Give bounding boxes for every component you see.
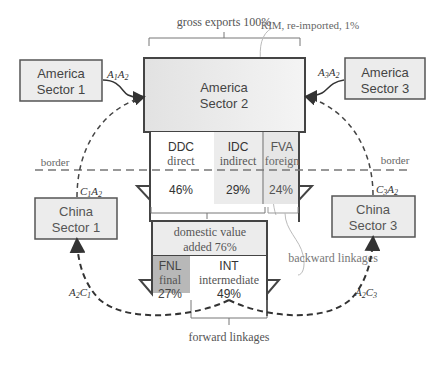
- fnl-pct: 27%: [158, 287, 182, 301]
- fnl-triangle: [140, 280, 152, 294]
- border-label-right: border: [381, 154, 410, 166]
- dva-split-table: FNL final 27% INT intermediate 49% forwa…: [140, 256, 279, 344]
- flow-a1a2-arrow: [103, 80, 142, 97]
- border-label-left: border: [41, 156, 70, 168]
- china-sector-1-line1: China: [59, 204, 94, 219]
- idc-name: indirect: [220, 154, 257, 168]
- china-sector-1-line2: Sector 1: [52, 220, 100, 235]
- flow-a3a2-label: A3A2: [317, 66, 339, 80]
- america-sector-3-line2: Sector 3: [361, 81, 409, 96]
- america-sector-1-line1: America: [37, 66, 85, 81]
- fva-code: FVA: [271, 140, 293, 154]
- backward-linkages-label: backward linkages: [288, 251, 378, 265]
- flow-a2c1-label: A2C1: [68, 286, 91, 300]
- fva-pct: 24%: [269, 183, 293, 197]
- flow-c1a2-label: C1A2: [80, 185, 102, 199]
- int-name: intermediate: [199, 273, 259, 287]
- int-pct: 49%: [217, 287, 241, 301]
- america-sector-2-box: America Sector 2: [144, 58, 305, 132]
- ddc-pct: 46%: [169, 183, 193, 197]
- flow-a2c3-label: A2C3: [354, 286, 377, 300]
- america-sector-3-line1: America: [361, 65, 409, 80]
- dva-line2: added 76%: [183, 240, 237, 254]
- forward-linkages-label: forward linkages: [189, 330, 270, 344]
- dva-line1: domestic value: [174, 225, 246, 239]
- china-sector-3-line1: China: [356, 202, 391, 217]
- left-arrow-triangle: [137, 186, 150, 200]
- ddc-name: direct: [167, 154, 195, 168]
- america-sector-3-box: America Sector 3 A3A2: [308, 58, 425, 99]
- fnl-name: final: [159, 273, 182, 287]
- america-sector-1-line2: Sector 1: [37, 82, 85, 97]
- flow-c3a2-label: C3A2: [376, 183, 398, 197]
- rim-label: RIM, re-imported, 1%: [261, 19, 359, 31]
- china-sector-3-line2: Sector 3: [349, 218, 397, 233]
- ddc-code: DDC: [168, 140, 194, 154]
- int-code: INT: [219, 259, 239, 273]
- gross-exports-label: gross exports 100%: [177, 15, 272, 29]
- decomposition-table: DDC direct 46% IDC indirect 29% FVA fore…: [137, 132, 312, 222]
- domestic-value-added-box: domestic value added 76%: [152, 221, 267, 256]
- flow-c1a2-arrow: [77, 97, 143, 197]
- idc-pct: 29%: [226, 183, 250, 197]
- america-sector-1-box: America Sector 1 A1A2: [20, 60, 142, 101]
- diagram-canvas: gross exports 100% RIM, re-imported, 1% …: [0, 0, 448, 371]
- america-sector-2-line2: Sector 2: [200, 96, 248, 111]
- fva-name: foreign: [265, 154, 300, 168]
- flow-a1a2-label: A1A2: [106, 68, 128, 82]
- int-triangle: [267, 280, 279, 294]
- flow-c3a2-arrow: [307, 97, 373, 195]
- fnl-code: FNL: [159, 259, 182, 273]
- right-arrow-triangle: [299, 186, 312, 200]
- flow-a3a2-arrow: [308, 80, 344, 96]
- idc-code: IDC: [228, 140, 249, 154]
- america-sector-2-line1: America: [200, 80, 248, 95]
